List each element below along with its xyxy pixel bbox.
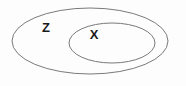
inner-set-ellipse-x — [69, 23, 155, 63]
set-label-x: X — [90, 27, 99, 42]
venn-diagram: Z X — [0, 0, 186, 86]
set-label-z: Z — [42, 20, 50, 35]
venn-diagram-canvas: Z X — [0, 0, 186, 86]
